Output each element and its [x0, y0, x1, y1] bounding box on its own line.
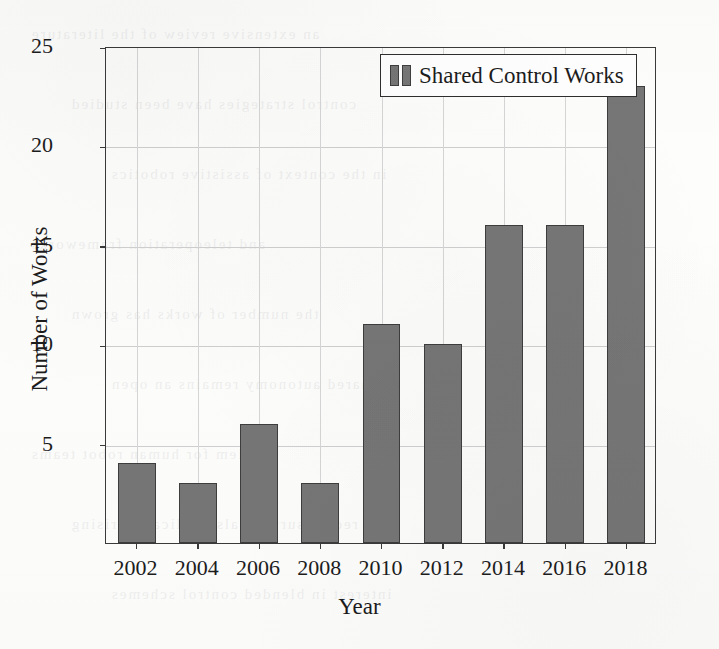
bar-2008 — [301, 483, 339, 543]
chart-legend: Shared Control Works — [380, 54, 637, 97]
x-tick-mark — [626, 543, 627, 549]
x-tick-mark — [197, 543, 198, 549]
legend-chip-left — [390, 65, 399, 86]
bar-2018 — [607, 86, 645, 543]
y-tick-mark — [100, 48, 106, 49]
y-tick-mark — [100, 346, 106, 347]
x-tick-mark — [503, 543, 504, 549]
x-tick-mark — [381, 543, 382, 549]
x-tick-mark — [320, 543, 321, 549]
bar-2014 — [485, 225, 523, 543]
bar-2016 — [546, 225, 584, 543]
x-tick-label: 2016 — [529, 556, 599, 580]
gridline-horizontal — [106, 147, 655, 148]
y-axis-title: Number of Works — [27, 139, 53, 479]
x-tick-label: 2006 — [223, 556, 293, 580]
x-tick-mark — [442, 543, 443, 549]
x-tick-mark — [136, 543, 137, 549]
x-tick-label: 2002 — [101, 556, 171, 580]
gridline-vertical — [320, 48, 321, 543]
legend-chip-right — [402, 65, 411, 86]
x-tick-label: 2004 — [162, 556, 232, 580]
bar-2006 — [240, 424, 278, 543]
x-tick-mark — [565, 543, 566, 549]
bar-chart-figure: 510152025 200220042006200820102012201420… — [0, 0, 719, 649]
plot-area — [105, 47, 656, 544]
y-tick-label: 25 — [0, 35, 53, 57]
x-tick-label: 2012 — [407, 556, 477, 580]
legend-color-swatch — [390, 65, 411, 86]
x-tick-label: 2014 — [468, 556, 538, 580]
y-tick-mark — [100, 445, 106, 446]
bar-2012 — [424, 344, 462, 543]
x-axis-title: Year — [0, 594, 719, 620]
x-tick-label: 2008 — [284, 556, 354, 580]
bar-2004 — [179, 483, 217, 543]
bar-2010 — [363, 324, 401, 543]
y-tick-mark — [100, 147, 106, 148]
x-tick-label: 2010 — [346, 556, 416, 580]
x-tick-label: 2018 — [590, 556, 660, 580]
bar-2002 — [118, 463, 156, 543]
x-tick-mark — [259, 543, 260, 549]
y-tick-mark — [100, 246, 106, 247]
gridline-vertical — [198, 48, 199, 543]
legend-label: Shared Control Works — [419, 64, 624, 88]
